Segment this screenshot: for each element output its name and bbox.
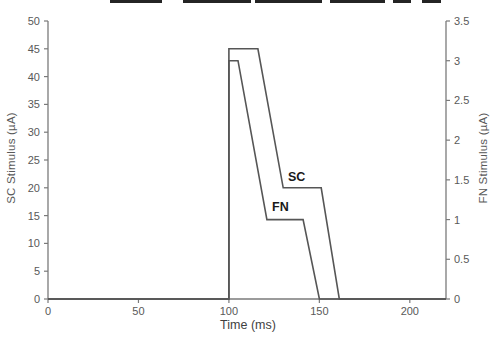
- right-y-axis-tick-label: 3: [454, 55, 460, 67]
- series-line-fn: [48, 61, 446, 299]
- left-y-axis-tick-label: 35: [28, 98, 40, 110]
- cropped-title-artifact: [422, 0, 441, 3]
- right-y-axis-tick-label: 1: [454, 214, 460, 226]
- right-y-axis-tick-label: 2: [454, 134, 460, 146]
- left-y-axis-tick-label: 45: [28, 43, 40, 55]
- left-y-axis-tick-label: 20: [28, 182, 40, 194]
- left-y-axis-tick-label: 15: [28, 210, 40, 222]
- left-y-axis-tick-label: 40: [28, 71, 40, 83]
- x-axis-tick-label: 150: [310, 305, 328, 317]
- cropped-title-artifact: [110, 0, 162, 3]
- left-y-axis-tick-label: 50: [28, 15, 40, 27]
- right-y-axis-tick-label: 3.5: [454, 15, 469, 27]
- cropped-title-artifact: [330, 0, 385, 3]
- left-y-axis-tick-label: 10: [28, 237, 40, 249]
- chart-figure: 0501001502000510152025303540455000.511.5…: [0, 0, 500, 355]
- left-y-axis-tick-label: 25: [28, 154, 40, 166]
- left-y-axis-title: SC Stimulus (µA): [5, 78, 17, 238]
- left-y-axis-tick-label: 30: [28, 126, 40, 138]
- x-axis-tick-label: 50: [132, 305, 144, 317]
- cropped-title-artifact: [393, 0, 411, 3]
- left-y-axis-tick-label: 0: [34, 293, 40, 305]
- sc-series-label: SC: [288, 170, 305, 184]
- series-line-sc: [48, 49, 446, 299]
- chart-canvas: 0501001502000510152025303540455000.511.5…: [0, 0, 500, 355]
- x-axis-title: Time (ms): [148, 318, 348, 332]
- right-y-axis-title: FN Stimulus (µA): [477, 78, 489, 238]
- left-y-axis-tick-label: 5: [34, 265, 40, 277]
- right-y-axis-tick-label: 0: [454, 293, 460, 305]
- right-y-axis-tick-label: 1.5: [454, 174, 469, 186]
- right-y-axis-tick-label: 0.5: [454, 253, 469, 265]
- fn-series-label: FN: [272, 200, 289, 214]
- cropped-title-artifact: [255, 0, 322, 3]
- cropped-title-artifact: [183, 0, 251, 3]
- x-axis-tick-label: 100: [220, 305, 238, 317]
- x-axis-tick-label: 0: [45, 305, 51, 317]
- x-axis-tick-label: 200: [401, 305, 419, 317]
- right-y-axis-tick-label: 2.5: [454, 94, 469, 106]
